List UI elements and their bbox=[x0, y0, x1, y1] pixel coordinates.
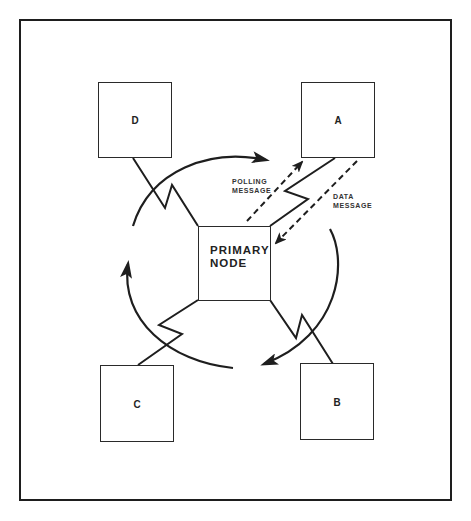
node-b: B bbox=[300, 363, 374, 440]
node-b-label: B bbox=[333, 396, 341, 408]
node-c-label: C bbox=[133, 398, 141, 410]
node-d-label: D bbox=[131, 114, 139, 126]
polling-message-label-line1: POLLING bbox=[232, 178, 267, 185]
data-message-label-line2: MESSAGE bbox=[333, 202, 372, 209]
link-b-primary bbox=[270, 300, 333, 364]
primary-node-label-line2: NODE bbox=[210, 257, 247, 269]
polling-cycle-arc-right bbox=[264, 229, 338, 364]
node-a-label: A bbox=[334, 114, 342, 126]
node-a: A bbox=[301, 82, 375, 158]
link-c-primary bbox=[138, 300, 198, 365]
polling-message-label-line2: MESSAGE bbox=[232, 187, 271, 194]
primary-node-label-line1: PRIMARY bbox=[210, 244, 270, 256]
primary-node: PRIMARYNODE bbox=[198, 226, 271, 301]
data-message-label: DATAMESSAGE bbox=[333, 192, 372, 210]
data-message-label-line1: DATA bbox=[333, 193, 354, 200]
polling-network-diagram: D A C B PRIMARYNODE POLLINGMESSAGE DATAM… bbox=[0, 0, 471, 521]
node-d: D bbox=[98, 82, 172, 158]
primary-node-label: PRIMARYNODE bbox=[210, 244, 270, 270]
node-c: C bbox=[100, 365, 174, 442]
link-d-primary bbox=[133, 158, 198, 226]
polling-message-label: POLLINGMESSAGE bbox=[232, 177, 271, 195]
